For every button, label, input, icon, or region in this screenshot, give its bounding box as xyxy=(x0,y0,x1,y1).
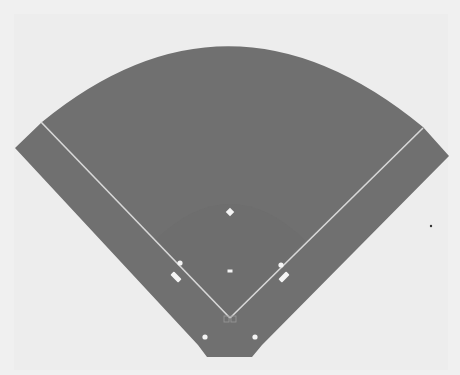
left-on-deck-circle xyxy=(202,334,207,339)
stray-dot xyxy=(430,225,432,227)
baseball-field-diagram xyxy=(0,0,460,375)
right-on-deck-circle xyxy=(252,334,257,339)
third-base xyxy=(177,260,182,265)
first-base xyxy=(278,262,283,267)
pitchers-rubber xyxy=(228,270,233,273)
